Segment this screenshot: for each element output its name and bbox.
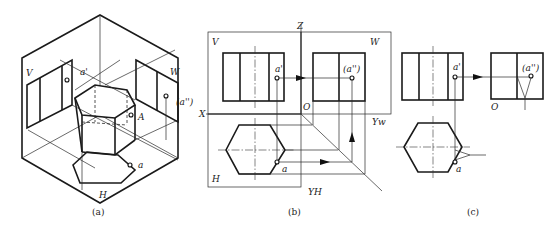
label-axis-z: Z (296, 21, 304, 31)
label-point-side: (a'') (176, 97, 194, 107)
orthographic-projection-diagram: V W H a' (a'') A a (a) (0, 0, 553, 229)
v-plane-view (27, 60, 72, 128)
side-view-b (313, 53, 365, 101)
label-w-plane-b: W (370, 37, 380, 47)
label-point-side-c: (a'') (522, 63, 540, 73)
label-h-plane: H (98, 190, 107, 200)
figure-a: V W H a' (a'') A a (a) (22, 15, 194, 217)
top-view-c (396, 79, 486, 178)
label-w-plane: W (170, 67, 180, 77)
figure-b: V W H Z X O Yw YH a' (a'') a (b) (198, 21, 391, 217)
caption-b: (b) (288, 207, 301, 217)
label-point-space: A (137, 112, 145, 122)
label-point-top-b: a (282, 164, 287, 174)
label-axis-x: X (198, 109, 206, 119)
label-point-front-c: a' (453, 62, 461, 72)
label-origin-c: O (491, 102, 499, 112)
caption-a: (a) (92, 207, 104, 217)
label-point-top: a (138, 160, 143, 170)
label-point-front: a' (80, 67, 88, 77)
label-h-plane-b: H (211, 174, 220, 184)
label-axis-yw: Yw (372, 117, 386, 127)
label-axis-yh: YH (308, 187, 322, 197)
label-v-plane: V (26, 68, 34, 78)
label-origin-b: O (303, 102, 311, 112)
label-point-side-b: (a'') (343, 64, 361, 74)
label-point-top-c: a (456, 164, 461, 174)
label-point-front-b: a' (275, 64, 283, 74)
side-view-c (491, 53, 543, 110)
front-view-b (223, 46, 284, 108)
front-view-c (402, 46, 463, 106)
label-v-plane-b: V (212, 37, 220, 47)
figure-c: O a' (a'') a (c) (396, 46, 543, 217)
caption-c: (c) (467, 207, 479, 217)
